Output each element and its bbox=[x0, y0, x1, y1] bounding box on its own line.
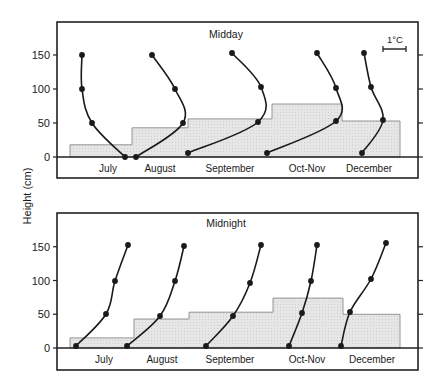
data-point-marker bbox=[79, 86, 85, 92]
data-point-marker bbox=[286, 343, 292, 349]
y-tick-label: 100 bbox=[32, 83, 50, 95]
data-point-marker bbox=[247, 280, 253, 286]
y-axis-label: Height (cm) bbox=[21, 168, 33, 225]
data-point-marker bbox=[258, 84, 264, 90]
data-point-marker bbox=[229, 50, 235, 56]
month-label: September bbox=[206, 354, 256, 365]
data-point-marker bbox=[122, 154, 128, 160]
data-point-marker bbox=[255, 119, 261, 125]
month-label: Oct-Nov bbox=[289, 163, 326, 174]
y-tick-label: 0 bbox=[44, 342, 50, 354]
data-point-marker bbox=[347, 309, 353, 315]
y-tick-label: 50 bbox=[38, 308, 50, 320]
scale-bar: 1°C bbox=[383, 34, 406, 52]
profile-curve bbox=[81, 55, 125, 157]
data-point-marker bbox=[368, 84, 374, 90]
y-tick-label: 150 bbox=[32, 49, 50, 61]
data-point-marker bbox=[333, 118, 339, 124]
data-point-marker bbox=[314, 50, 320, 56]
data-point-marker bbox=[133, 154, 139, 160]
data-point-marker bbox=[258, 242, 264, 248]
y-tick-label: 100 bbox=[32, 275, 50, 287]
profile-curve bbox=[76, 245, 128, 346]
data-point-marker bbox=[230, 313, 236, 319]
data-point-marker bbox=[299, 310, 305, 316]
data-point-marker bbox=[333, 85, 339, 91]
data-point-marker bbox=[368, 276, 374, 282]
month-label: July bbox=[95, 354, 113, 365]
data-point-marker bbox=[172, 278, 178, 284]
data-point-marker bbox=[380, 117, 386, 123]
profile-july bbox=[79, 52, 128, 160]
data-point-marker bbox=[308, 278, 314, 284]
month-label: December bbox=[349, 354, 396, 365]
data-point-marker bbox=[103, 311, 109, 317]
y-tick-label: 0 bbox=[44, 151, 50, 163]
scale-bar-label: 1°C bbox=[387, 34, 403, 45]
data-point-marker bbox=[185, 150, 191, 156]
canopy-height-area bbox=[70, 104, 400, 157]
data-point-marker bbox=[181, 243, 187, 249]
data-point-marker bbox=[359, 150, 365, 156]
data-point-marker bbox=[125, 242, 131, 248]
data-point-marker bbox=[124, 343, 130, 349]
data-point-marker bbox=[383, 240, 389, 246]
month-label: December bbox=[346, 163, 393, 174]
month-label: July bbox=[99, 163, 117, 174]
data-point-marker bbox=[172, 86, 178, 92]
data-point-marker bbox=[361, 50, 367, 56]
data-point-marker bbox=[79, 52, 85, 58]
panel-midday: 050100150MiddayJulyAugustSeptemberOct-No… bbox=[32, 22, 423, 178]
chart-canvas: Height (cm) 050100150MiddayJulyAugustSep… bbox=[0, 0, 438, 392]
y-tick-label: 50 bbox=[38, 117, 50, 129]
month-label: Oct-Nov bbox=[289, 354, 326, 365]
data-point-marker bbox=[180, 120, 186, 126]
month-label: August bbox=[144, 163, 175, 174]
data-point-marker bbox=[157, 313, 163, 319]
panel-title: Midnight bbox=[206, 217, 246, 229]
data-point-marker bbox=[264, 150, 270, 156]
panel-midnight: 050100150MidnightJulyAugustSeptemberOct-… bbox=[32, 213, 423, 370]
data-point-marker bbox=[338, 343, 344, 349]
canopy-height-area bbox=[70, 298, 400, 348]
temperature-profile-figure: Height (cm) 050100150MiddayJulyAugustSep… bbox=[0, 0, 438, 392]
data-point-marker bbox=[203, 343, 209, 349]
data-point-marker bbox=[314, 242, 320, 248]
data-point-marker bbox=[149, 52, 155, 58]
month-label: August bbox=[146, 354, 177, 365]
data-point-marker bbox=[112, 278, 118, 284]
data-point-marker bbox=[73, 343, 79, 349]
month-label: September bbox=[206, 163, 256, 174]
y-tick-label: 150 bbox=[32, 241, 50, 253]
data-point-marker bbox=[89, 120, 95, 126]
profile-july bbox=[73, 242, 131, 349]
panel-title: Midday bbox=[209, 28, 244, 40]
